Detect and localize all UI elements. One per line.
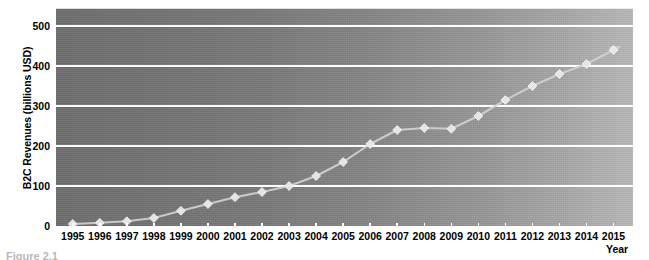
x-tick-1999 [180,223,182,229]
chart-container: B2C Revenues (billions USD) 010020030040… [0,0,649,260]
x-tick-2012 [532,223,534,229]
x-tick-1995 [72,223,74,229]
x-tick-label-2015: 2015 [594,231,634,242]
data-point-2007 [393,126,402,135]
data-point-2009 [447,124,456,133]
x-axis-line [56,226,633,228]
data-point-2003 [285,182,294,191]
data-point-2011 [501,96,510,105]
data-point-2010 [474,112,483,121]
x-tick-2011 [505,223,507,229]
data-point-1998 [149,214,158,223]
plot-area [56,8,633,227]
x-tick-2009 [451,223,453,229]
x-tick-2003 [288,223,290,229]
x-tick-2013 [559,223,561,229]
data-point-2013 [555,70,564,79]
x-tick-1998 [153,223,155,229]
x-tick-1996 [99,223,101,229]
data-series-line [56,8,633,227]
data-point-2008 [420,124,429,133]
x-tick-2000 [207,223,209,229]
x-tick-2015 [613,223,615,229]
x-axis-title: Year [606,243,628,255]
data-point-1999 [177,206,186,215]
x-tick-2001 [234,223,236,229]
x-tick-2006 [369,223,371,229]
x-tick-2014 [586,223,588,229]
y-axis-title: B2C Revenues (billions USD) [21,13,33,223]
data-point-2014 [582,60,591,69]
figure-caption-fragment: Figure 2.1 [6,250,58,260]
data-point-2002 [258,188,267,197]
data-point-2001 [231,193,240,202]
x-tick-2008 [424,223,426,229]
x-tick-2010 [478,223,480,229]
series-polyline [73,50,614,224]
x-tick-2004 [315,223,317,229]
x-tick-2002 [261,223,263,229]
data-point-2004 [312,172,321,181]
data-point-2012 [528,82,537,91]
x-tick-1997 [126,223,128,229]
x-tick-2005 [342,223,344,229]
data-point-2000 [204,200,213,209]
x-tick-2007 [396,223,398,229]
